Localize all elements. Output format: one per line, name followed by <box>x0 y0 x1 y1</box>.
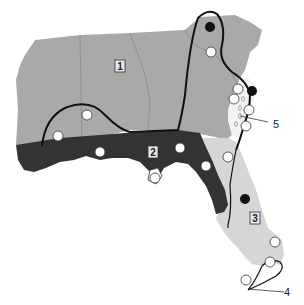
open-site <box>206 47 216 57</box>
open-site <box>229 94 239 104</box>
region-3-label: 3 <box>250 212 260 224</box>
region-1-label: 1 <box>115 60 125 72</box>
open-site <box>82 110 92 120</box>
open-site <box>244 105 254 115</box>
open-site <box>53 131 63 141</box>
open-site <box>223 152 233 162</box>
region-2-label: 2 <box>148 146 158 158</box>
region-1-text: 1 <box>117 61 123 72</box>
filled-site <box>205 22 215 32</box>
open-site <box>270 237 280 247</box>
open-site <box>241 275 251 285</box>
callout-4-text: 4 <box>284 286 290 298</box>
open-site <box>265 257 275 267</box>
map-canvas: 1 2 3 5 4 <box>0 0 304 305</box>
region-3-text: 3 <box>252 213 258 224</box>
open-site <box>95 147 105 157</box>
region-1-area <box>16 15 262 146</box>
keys-boundary <box>248 261 282 290</box>
region-2-text: 2 <box>150 147 156 158</box>
filled-site <box>240 194 250 204</box>
region-2-area <box>16 130 228 214</box>
open-site <box>201 161 211 171</box>
callout-4-leader <box>248 289 284 292</box>
open-site <box>150 173 160 183</box>
filled-site <box>247 86 257 96</box>
open-site <box>233 84 243 94</box>
open-site <box>241 121 251 131</box>
open-site <box>175 143 185 153</box>
callout-5-text: 5 <box>273 118 279 130</box>
